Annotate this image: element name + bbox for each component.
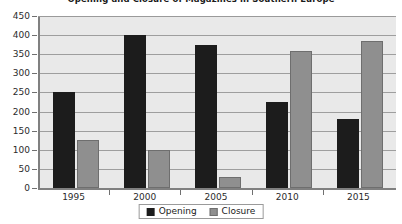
x-axis-tick <box>252 190 253 195</box>
y-axis-tick <box>32 92 37 93</box>
bar-closure-2015 <box>361 41 383 188</box>
bar-opening-1995 <box>53 92 75 188</box>
y-axis-tick-label: 150 <box>13 126 30 136</box>
bar-opening-2015 <box>337 119 359 188</box>
y-axis-tick <box>32 169 37 170</box>
bar-closure-2010 <box>290 51 312 188</box>
legend-item-closure: Closure <box>210 207 256 216</box>
y-axis-tick-label: 250 <box>13 87 30 97</box>
y-axis-tick <box>32 35 37 36</box>
y-axis-tick <box>32 188 37 189</box>
x-axis-tick-label: 2010 <box>276 192 299 202</box>
y-axis-tick-label: 50 <box>19 164 30 174</box>
plot-area <box>38 16 396 190</box>
x-axis-tick <box>109 190 110 195</box>
y-axis-tick-label: 450 <box>13 11 30 21</box>
bar-chart: Opening and Closure of Magazines in Sout… <box>0 0 402 224</box>
legend-swatch-opening <box>147 208 155 216</box>
bar-closure-2000 <box>148 150 170 188</box>
chart-legend: Opening Closure <box>139 204 264 219</box>
x-axis-tick-label: 1995 <box>62 192 85 202</box>
x-axis-tick-label: 2015 <box>347 192 370 202</box>
y-axis-tick-label: 200 <box>13 107 30 117</box>
y-axis-tick-label: 350 <box>13 49 30 59</box>
bar-opening-2000 <box>124 35 146 188</box>
y-axis-tick-label: 300 <box>13 68 30 78</box>
bar-closure-1995 <box>77 140 99 188</box>
legend-label-opening: Opening <box>159 207 197 216</box>
y-axis-tick <box>32 131 37 132</box>
y-axis-tick <box>32 112 37 113</box>
y-axis: 050100150200250300350400450 <box>0 16 36 188</box>
x-axis-tick-label: 2005 <box>205 192 228 202</box>
y-axis-tick-label: 400 <box>13 30 30 40</box>
plot-top-border <box>38 16 394 17</box>
y-axis-tick-label: 0 <box>24 183 30 193</box>
x-axis-tick <box>323 190 324 195</box>
y-axis-tick <box>32 54 37 55</box>
legend-item-opening: Opening <box>147 207 197 216</box>
y-axis-tick <box>32 73 37 74</box>
y-axis-tick <box>32 16 37 17</box>
y-axis-tick-label: 100 <box>13 145 30 155</box>
chart-title: Opening and Closure of Magazines in Sout… <box>0 0 402 4</box>
legend-label-closure: Closure <box>222 207 256 216</box>
bar-group <box>40 16 396 188</box>
bar-opening-2010 <box>266 102 288 188</box>
x-axis-tick-label: 2000 <box>133 192 156 202</box>
x-axis-tick <box>180 190 181 195</box>
bar-opening-2005 <box>195 45 217 188</box>
bar-closure-2005 <box>219 177 241 188</box>
legend-swatch-closure <box>210 208 218 216</box>
y-axis-tick <box>32 150 37 151</box>
